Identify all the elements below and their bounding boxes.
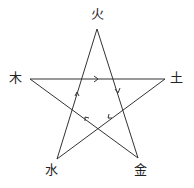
node-wood-label: 木 [9, 71, 22, 85]
edge-earth-water [57, 79, 165, 159]
node-metal-label: 金 [134, 163, 147, 177]
pentagram-lines [0, 0, 194, 188]
arrow-down-left-icon [108, 114, 112, 118]
edge-fire-metal [97, 29, 138, 158]
node-earth-label: 土 [170, 71, 183, 85]
node-water-label: 水 [45, 163, 58, 177]
five-elements-diagram: 火 木 土 水 金 [0, 0, 194, 188]
edge-metal-wood [30, 79, 138, 158]
node-fire-label: 火 [91, 7, 104, 21]
edge-water-fire [57, 29, 97, 159]
